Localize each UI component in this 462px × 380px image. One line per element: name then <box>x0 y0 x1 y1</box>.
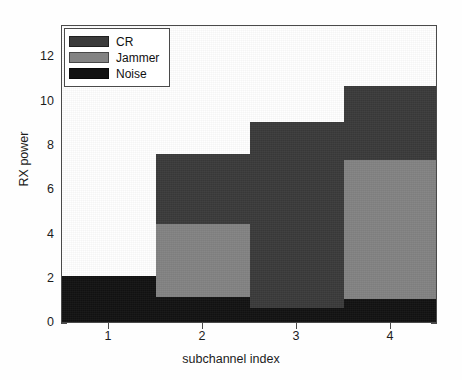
legend-item-jammer[interactable]: Jammer <box>69 50 164 65</box>
y-tick-mark-right-0 <box>431 323 437 324</box>
x-tick-label-4: 4 <box>375 330 405 343</box>
y-tick-label-0: 0 <box>18 316 54 329</box>
x-tick-label-3: 3 <box>281 330 311 343</box>
legend-swatch-jammer <box>69 52 109 63</box>
bar-stack-3[interactable] <box>250 122 344 322</box>
bar-stack-2[interactable] <box>156 154 250 322</box>
legend-label-noise: Noise <box>116 68 147 80</box>
y-axis-title: RX power <box>17 99 31 219</box>
bar-segment-cr-3 <box>250 122 344 309</box>
y-tick-label-4: 4 <box>18 228 54 241</box>
bar-segment-jammer-2 <box>156 224 250 297</box>
legend-label-jammer: Jammer <box>116 52 159 64</box>
bar-segment-cr-2 <box>156 154 250 225</box>
y-tick-mark-0 <box>61 323 67 324</box>
legend-item-noise[interactable]: Noise <box>69 66 164 81</box>
y-tick-label-12: 12 <box>18 50 54 63</box>
legend: CR Jammer Noise <box>64 28 170 87</box>
bar-segment-noise-3 <box>250 308 344 322</box>
bar-segment-noise-4 <box>344 299 437 322</box>
bar-segment-cr-4 <box>344 86 437 160</box>
bar-segment-noise-2 <box>156 297 250 322</box>
bar-stack-1[interactable] <box>62 276 156 322</box>
x-axis-title: subchannel index <box>0 352 462 366</box>
legend-item-cr[interactable]: CR <box>69 34 164 49</box>
bar-stack-4[interactable] <box>344 86 437 322</box>
figure-canvas: 0 2 4 6 8 10 12 1 2 3 4 subchannel index… <box>0 0 462 380</box>
legend-swatch-cr <box>69 36 109 47</box>
legend-label-cr: CR <box>116 36 133 48</box>
bar-segment-noise-1 <box>62 276 156 322</box>
y-tick-label-2: 2 <box>18 272 54 285</box>
bar-segment-jammer-4 <box>344 160 437 299</box>
legend-swatch-noise <box>69 68 109 79</box>
x-tick-label-1: 1 <box>93 330 123 343</box>
x-tick-label-2: 2 <box>187 330 217 343</box>
